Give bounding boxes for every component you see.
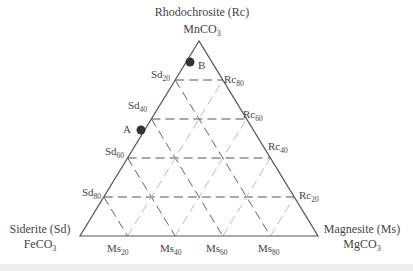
ternary-diagram: B A Rhodochrosite (Rc) MnCO3 Siderite (S… bbox=[0, 0, 413, 271]
tick-sd80: Sd80 bbox=[82, 186, 101, 201]
vertex-left-name: Siderite (Sd) bbox=[10, 222, 71, 236]
vertex-left-formula: FeCO3 bbox=[24, 237, 57, 253]
tick-ms60: Ms60 bbox=[206, 242, 228, 257]
point-a-label: A bbox=[123, 123, 131, 135]
bottom-axis-ticks: Ms20 Ms40 Ms60 Ms80 bbox=[107, 242, 280, 257]
grid-horizontal bbox=[104, 80, 294, 197]
vertex-top-name: Rhodochrosite (Rc) bbox=[155, 5, 249, 19]
vertex-right-name: Magnesite (Ms) bbox=[324, 222, 400, 236]
tick-sd60: Sd60 bbox=[105, 145, 124, 160]
vertex-top-formula: MnCO3 bbox=[183, 22, 220, 38]
tick-ms40: Ms40 bbox=[160, 242, 182, 257]
point-b-label: B bbox=[198, 59, 205, 71]
tick-ms20: Ms20 bbox=[107, 242, 129, 257]
vertex-right-formula: MgCO3 bbox=[343, 237, 380, 253]
tick-sd20: Sd20 bbox=[151, 68, 170, 83]
tick-sd40: Sd40 bbox=[128, 99, 147, 114]
tick-ms80: Ms80 bbox=[258, 242, 280, 257]
tick-rc20: Rc20 bbox=[299, 189, 319, 204]
tick-rc40: Rc40 bbox=[268, 140, 288, 155]
point-b-marker bbox=[186, 58, 195, 67]
bottom-divider-band bbox=[0, 264, 413, 271]
tick-rc60: Rc60 bbox=[243, 108, 263, 123]
point-a-marker bbox=[137, 126, 146, 135]
right-axis-ticks: Rc80 Rc60 Rc40 Rc20 bbox=[224, 73, 319, 204]
